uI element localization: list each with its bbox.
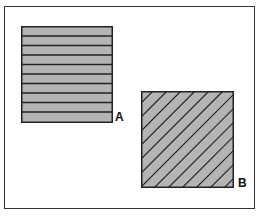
label-b: B <box>238 176 247 190</box>
square-b-diagonal-hatch <box>141 91 234 188</box>
square-a-horizontal-hatch <box>21 26 113 123</box>
label-a: A <box>115 110 124 124</box>
